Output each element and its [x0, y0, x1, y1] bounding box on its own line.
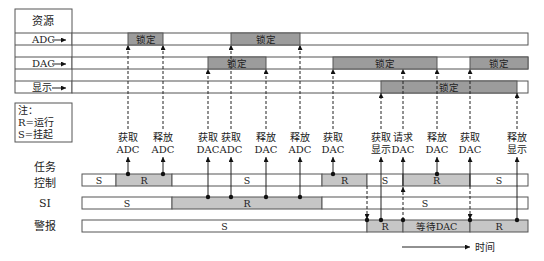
event-dot — [331, 172, 335, 176]
state-label: S — [382, 175, 389, 186]
event-resource: DAC — [322, 144, 345, 155]
state-label: S — [422, 198, 429, 209]
event-resource: 显示 — [371, 144, 391, 155]
event-resource: ADC — [116, 144, 140, 155]
event-resource: ADC — [288, 144, 312, 155]
event-resource: DAC — [426, 144, 449, 155]
event-action: 获取 — [323, 132, 343, 143]
lock-label: 锁定 — [227, 58, 247, 69]
task-row-control: 任务 控制 S R S R S R S — [34, 161, 528, 190]
lock-label: 锁定 — [375, 58, 395, 69]
event-action: 获取 — [371, 132, 391, 143]
event-dot — [379, 218, 383, 222]
event-resource: ADC — [219, 144, 243, 155]
event-dot — [126, 172, 130, 176]
state-label: 等待DAC — [416, 221, 458, 232]
state-label: S — [496, 175, 503, 186]
event-action: 释放 — [427, 131, 447, 143]
event-action: 释放 — [153, 131, 173, 143]
event-action: 获取 — [221, 132, 241, 143]
event-dot — [401, 218, 405, 222]
event-resource: DAC — [459, 144, 482, 155]
resource-legend-box: 资源 ADC DAC 显示 — [15, 9, 72, 93]
state-label: S — [124, 198, 131, 209]
event-action: 释放 — [256, 131, 276, 143]
legend-title: 注： — [18, 104, 38, 116]
state-label: S — [244, 175, 251, 186]
event-resource: DAC — [392, 144, 415, 155]
event-action: 释放 — [507, 131, 527, 143]
state-label: R — [341, 175, 349, 186]
state-label: S — [96, 175, 103, 186]
task-label: 警报 — [34, 219, 56, 233]
task-row-si: SI S R S — [39, 197, 528, 210]
time-axis: 时间 — [402, 241, 495, 253]
event-resource: ADC — [151, 144, 175, 155]
state-label: S — [221, 221, 228, 232]
lock-label: 锁定 — [136, 34, 156, 45]
event-resource: 显示 — [507, 144, 527, 155]
resource-label-dac: DAC — [32, 58, 55, 69]
event-dot — [435, 172, 439, 176]
lock-label: 锁定 — [256, 34, 276, 45]
event-action: 获取 — [198, 132, 218, 143]
event-action: 请求 — [393, 131, 413, 143]
task-label: 任务 — [34, 161, 56, 174]
event-dot — [161, 172, 165, 176]
task-label: SI — [39, 197, 51, 210]
event-dot — [264, 195, 268, 199]
event-dot — [365, 218, 369, 222]
lock-label: 锁定 — [439, 82, 459, 93]
event-resource: DAC — [255, 144, 278, 155]
time-axis-label: 时间 — [475, 241, 495, 253]
resource-header: 资源 — [32, 14, 54, 28]
state-legend: 注： R=运行 S=挂起 — [15, 103, 72, 142]
event-dot — [229, 195, 233, 199]
task-row-alarm: 警报 S R 等待DAC R — [34, 219, 528, 233]
event-action: 释放 — [290, 131, 310, 143]
lock-label: 锁定 — [489, 58, 509, 69]
legend-suspend: S=挂起 — [18, 128, 53, 140]
legend-run: R=运行 — [18, 116, 54, 128]
event-action: 获取 — [460, 132, 480, 143]
event-dot — [206, 195, 210, 199]
state-label: R — [243, 198, 251, 209]
resource-label-display: 显示 — [32, 82, 52, 93]
state-label: R — [140, 175, 148, 186]
event-action: 获取 — [118, 132, 138, 143]
task-resource-timing-diagram: 资源 ADC DAC 显示 锁定 锁定 锁定 锁定 锁定 锁定 注： R=运行 … — [0, 0, 544, 261]
state-label: R — [381, 221, 389, 232]
resource-label-adc: ADC — [31, 34, 55, 45]
event-dot — [468, 218, 472, 222]
resource-row-adc: 锁定 锁定 — [72, 33, 528, 45]
task-label: 控制 — [34, 176, 56, 190]
event-dot — [298, 195, 302, 199]
state-label: R — [495, 221, 503, 232]
event-resource: DAC — [197, 144, 220, 155]
event-dot — [515, 218, 519, 222]
